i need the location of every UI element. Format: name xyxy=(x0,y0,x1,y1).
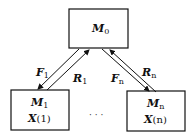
edge-r1-label: R1 xyxy=(72,72,87,86)
edge-fn-label: Fn xyxy=(110,72,124,86)
edge-f1-label: F1 xyxy=(35,66,49,80)
diagram-canvas: M0 M1 X(1) Mn X(n) F1 R1 Fn Rn xyxy=(0,0,195,137)
node-m0: M0 xyxy=(69,9,128,48)
node-m1: M1 X(1) xyxy=(11,90,69,130)
node-m1-state: X(1) xyxy=(27,112,51,125)
node-mn-state: X(n) xyxy=(143,113,167,126)
ellipsis: · · · xyxy=(89,110,103,120)
node-mn: Mn X(n) xyxy=(127,91,185,131)
edge-rn-label: Rn xyxy=(141,66,156,80)
